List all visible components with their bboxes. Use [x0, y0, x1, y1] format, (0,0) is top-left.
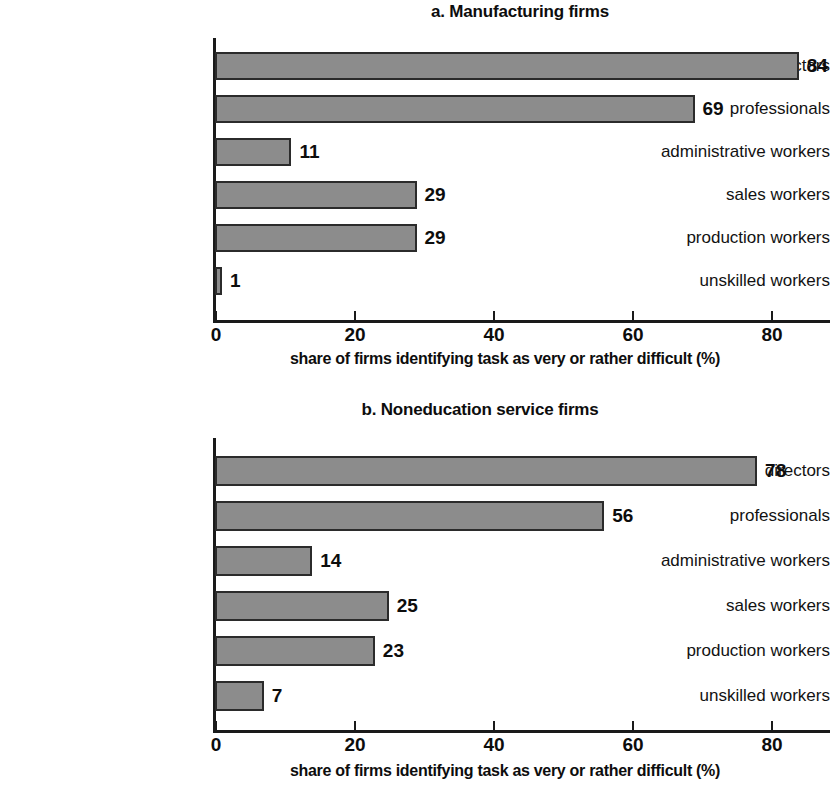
- x-tick-label: 0: [211, 734, 222, 756]
- x-tick: [215, 311, 217, 320]
- bar-value-label: 11: [299, 141, 319, 163]
- bar: [215, 95, 695, 123]
- bar: [215, 546, 312, 576]
- x-tick-label: 60: [622, 324, 643, 346]
- category-label: sales workers: [623, 185, 830, 205]
- bar: [215, 138, 291, 166]
- x-tick-label: 60: [622, 734, 643, 756]
- x-tick: [771, 311, 773, 320]
- panel-b-plot-area: directorsprofessionalsadministrative wor…: [0, 398, 830, 796]
- bar-value-label: 7: [272, 685, 283, 707]
- bar-value-label: 78: [765, 460, 786, 482]
- category-label: sales workers: [623, 596, 830, 616]
- category-label: administrative workers: [623, 551, 830, 571]
- x-tick-label: 20: [344, 324, 365, 346]
- category-label: unskilled workers: [623, 271, 830, 291]
- category-label: administrative workers: [623, 142, 830, 162]
- category-label: professionals: [623, 506, 830, 526]
- x-tick: [771, 721, 773, 730]
- panel-a-x-axis: [213, 320, 830, 323]
- x-tick: [493, 311, 495, 320]
- category-label: production workers: [623, 641, 830, 661]
- bar-value-label: 69: [703, 98, 724, 120]
- chart-panel-a: a. Manufacturing firms directorsprofessi…: [0, 0, 830, 398]
- category-label: production workers: [623, 228, 830, 248]
- x-tick-label: 0: [211, 324, 222, 346]
- x-tick: [632, 311, 634, 320]
- x-tick-label: 40: [483, 734, 504, 756]
- x-tick: [215, 721, 217, 730]
- panel-a-x-axis-title: share of firms identifying task as very …: [0, 350, 830, 368]
- bar: [215, 52, 799, 80]
- bar-value-label: 14: [320, 550, 341, 572]
- x-tick: [354, 721, 356, 730]
- bar-value-label: 56: [612, 505, 633, 527]
- bar-value-label: 29: [425, 227, 446, 249]
- bar: [215, 267, 222, 295]
- bar: [215, 224, 417, 252]
- bar: [215, 456, 757, 486]
- bar: [215, 591, 389, 621]
- bar-value-label: 25: [397, 595, 418, 617]
- bar-value-label: 1: [230, 270, 241, 292]
- bar-value-label: 23: [383, 640, 404, 662]
- x-tick-label: 20: [344, 734, 365, 756]
- bar-value-label: 84: [807, 55, 828, 77]
- x-tick-label: 80: [761, 324, 782, 346]
- panel-b-x-axis: [213, 730, 830, 733]
- x-tick: [354, 311, 356, 320]
- bar-value-label: 29: [425, 184, 446, 206]
- x-tick-label: 80: [761, 734, 782, 756]
- bar: [215, 181, 417, 209]
- category-label: unskilled workers: [623, 686, 830, 706]
- bar: [215, 636, 375, 666]
- x-tick: [632, 721, 634, 730]
- panel-b-x-axis-title: share of firms identifying task as very …: [0, 762, 830, 780]
- panel-a-plot-area: directorsprofessionalsadministrative wor…: [0, 0, 830, 398]
- chart-panel-b: b. Noneducation service firms directorsp…: [0, 398, 830, 796]
- bar: [215, 681, 264, 711]
- x-tick-label: 40: [483, 324, 504, 346]
- x-tick: [493, 721, 495, 730]
- bar: [215, 501, 604, 531]
